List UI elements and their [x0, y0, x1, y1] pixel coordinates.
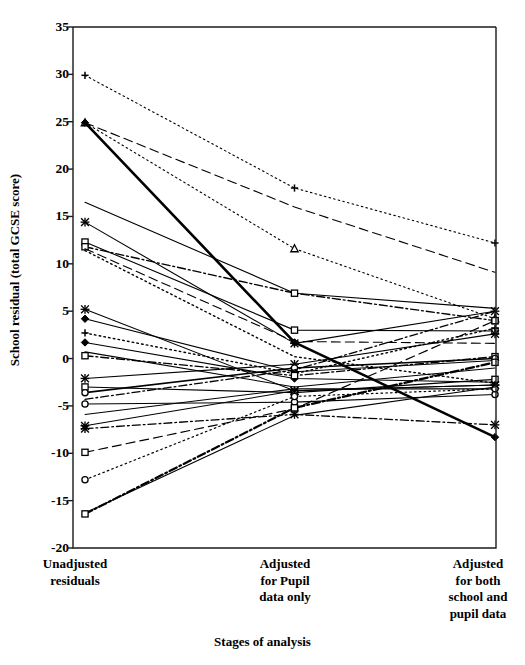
data-point-marker-diamond [81, 315, 88, 322]
series-line [81, 410, 500, 433]
series-path [85, 123, 495, 273]
data-point-marker-square [82, 449, 88, 455]
series-line [85, 249, 495, 344]
series-path [85, 242, 495, 331]
x-category-1: Adjusted for Pupil data only [220, 556, 350, 606]
series-line [85, 387, 495, 513]
plot-frame [73, 27, 496, 548]
series-line [85, 123, 495, 273]
series-path [85, 251, 495, 384]
data-point-marker-triangle [291, 245, 298, 252]
data-point-marker-square [492, 359, 498, 365]
series-path [85, 328, 495, 373]
series-path [85, 75, 495, 243]
series-path [85, 356, 495, 376]
series-path [85, 222, 495, 343]
data-point-marker-square [492, 318, 498, 324]
series-path [85, 123, 495, 319]
series-path [85, 352, 495, 387]
data-point-marker-circle [82, 477, 88, 483]
series-path [85, 123, 495, 437]
data-point-marker-circle [291, 393, 297, 399]
series-line [81, 72, 498, 247]
series-line [85, 251, 495, 384]
series-line [81, 315, 498, 375]
series-line [82, 239, 498, 334]
x-category-2: Adjusted for both school and pupil data [432, 556, 524, 623]
data-point-marker-circle [82, 390, 88, 396]
data-point-marker-circle [82, 401, 88, 407]
x-axis-title: Stages of analysis [0, 634, 525, 650]
series-line [82, 244, 498, 324]
data-point-marker-square [82, 511, 88, 517]
series-path [85, 387, 495, 513]
series-layer [81, 72, 500, 517]
data-point-marker-square [291, 327, 297, 333]
series-line [82, 386, 498, 483]
data-point-marker-square [291, 405, 297, 411]
data-point-marker-diamond [81, 339, 88, 346]
chart-container: School residual (total GCSE score) 35302… [0, 0, 525, 665]
x-category-0: Unadjusted residuals [10, 556, 140, 589]
data-point-marker-square [291, 290, 297, 296]
data-point-marker-square [291, 372, 297, 378]
data-point-marker-square [82, 353, 88, 359]
series-line [82, 391, 498, 407]
series-path [85, 249, 495, 344]
series-path [85, 414, 495, 428]
series-line [85, 352, 495, 387]
y-axis-ticks [67, 27, 73, 548]
